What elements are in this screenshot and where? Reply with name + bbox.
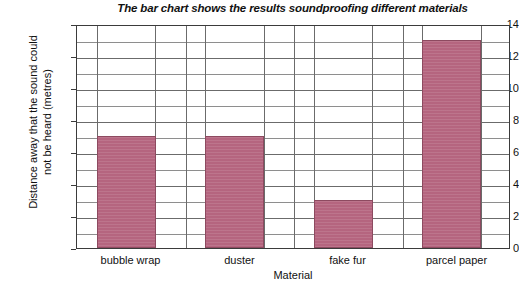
bar-parcel-paper[interactable] — [422, 40, 481, 248]
bar-fake-fur[interactable] — [314, 200, 373, 248]
x-tick-label: duster — [185, 254, 294, 266]
y-axis-title: Distance away that the sound could not b… — [26, 4, 54, 240]
x-tick-label: fake fur — [293, 254, 402, 266]
y-axis-title-line-2: not be heard (metres) — [40, 4, 54, 240]
x-axis-title: Material — [76, 269, 510, 281]
bar-duster[interactable] — [205, 136, 264, 248]
x-tick-label: bubble wrap — [76, 254, 185, 266]
plot-area — [76, 25, 510, 249]
bars-group — [77, 26, 509, 248]
bar-chart: The bar chart shows the results soundpro… — [0, 0, 519, 286]
x-tick-label: parcel paper — [402, 254, 511, 266]
y-tick-mark — [71, 249, 76, 250]
y-axis-title-line-1: Distance away that the sound could — [26, 4, 40, 240]
chart-title: The bar chart shows the results soundpro… — [70, 2, 515, 14]
bar-bubble-wrap[interactable] — [97, 136, 156, 248]
